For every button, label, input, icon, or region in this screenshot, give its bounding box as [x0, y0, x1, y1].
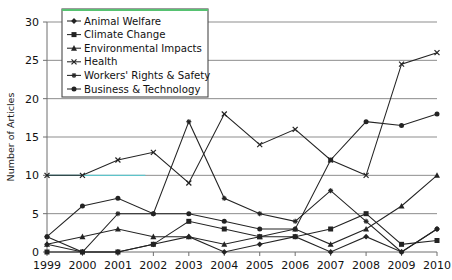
marker-square: [222, 227, 227, 232]
marker-star: [186, 119, 191, 124]
y-tick-label: 10: [25, 169, 39, 182]
marker-star: [328, 188, 333, 193]
marker-cross: [399, 62, 404, 67]
marker-square: [115, 250, 120, 255]
series-line: [47, 175, 437, 244]
x-tick-label: 2005: [246, 259, 274, 272]
series-workers-rights-safety: [45, 119, 440, 254]
y-tick-label: 0: [32, 246, 39, 259]
chart-canvas: 0510152025301999200020012002200320042005…: [0, 0, 452, 280]
series-line: [47, 214, 437, 252]
x-tick-label: 2009: [388, 259, 416, 272]
line-chart: 0510152025301999200020012002200320042005…: [0, 0, 452, 280]
marker-triangle: [328, 241, 334, 247]
legend-item-business-technology[interactable]: Business & Technology: [67, 84, 200, 95]
marker-circle: [364, 119, 369, 124]
y-axis-title: Number of Articles: [5, 93, 16, 182]
marker-cross: [186, 181, 191, 186]
legend-item-workers-rights-safety[interactable]: Workers' Rights & Safety: [67, 70, 210, 81]
marker-star: [293, 219, 298, 224]
marker-star: [80, 250, 85, 255]
legend-item-label: Climate Change: [84, 29, 165, 40]
marker-circle: [115, 196, 120, 201]
marker-circle: [293, 227, 298, 232]
marker-circle: [399, 123, 404, 128]
marker-square: [399, 242, 404, 247]
legend-item-label: Health: [84, 56, 117, 67]
marker-square: [45, 250, 50, 255]
marker-diamond: [328, 249, 334, 255]
marker-circle: [435, 112, 440, 117]
x-tick-label: 2002: [139, 259, 167, 272]
y-tick-label: 15: [25, 131, 39, 144]
legend-item-label: Business & Technology: [84, 84, 200, 95]
x-tick-label: 2001: [104, 259, 132, 272]
marker-square: [72, 32, 77, 37]
y-tick-label: 5: [32, 208, 39, 221]
marker-diamond: [221, 249, 227, 255]
marker-triangle: [363, 226, 369, 232]
x-tick-label: 1999: [33, 259, 61, 272]
marker-circle: [80, 204, 85, 209]
series-environmental-impacts: [44, 172, 440, 247]
marker-square: [328, 227, 333, 232]
marker-circle: [328, 158, 333, 163]
legend: Animal WelfareClimate ChangeEnvironmenta…: [62, 9, 210, 97]
marker-circle: [72, 87, 77, 92]
legend-item-label: Workers' Rights & Safety: [84, 70, 210, 81]
marker-circle: [186, 211, 191, 216]
marker-star: [399, 250, 404, 255]
marker-circle: [151, 211, 156, 216]
x-tick-label: 2006: [281, 259, 309, 272]
marker-star: [435, 227, 440, 232]
legend-item-label: Animal Welfare: [84, 16, 161, 27]
x-tick-label: 2003: [175, 259, 203, 272]
marker-triangle: [115, 226, 121, 232]
x-tick-label: 2010: [423, 259, 451, 272]
marker-star: [115, 211, 120, 216]
marker-diamond: [257, 241, 263, 247]
y-tick-label: 20: [25, 93, 39, 106]
marker-diamond: [363, 234, 369, 240]
x-tick-label: 2004: [210, 259, 238, 272]
marker-square: [435, 238, 440, 243]
marker-circle: [45, 234, 50, 239]
marker-star: [257, 211, 262, 216]
y-tick-label: 25: [25, 54, 39, 67]
marker-star: [222, 196, 227, 201]
y-tick-label: 30: [25, 16, 39, 29]
marker-circle: [257, 227, 262, 232]
x-tick-label: 2008: [352, 259, 380, 272]
legend-item-environmental-impacts[interactable]: Environmental Impacts: [67, 43, 202, 54]
marker-circle: [222, 219, 227, 224]
marker-star: [72, 73, 77, 78]
legend-item-label: Environmental Impacts: [84, 43, 202, 54]
marker-cross: [222, 112, 227, 117]
marker-star: [364, 219, 369, 224]
marker-square: [151, 242, 156, 247]
marker-square: [186, 219, 191, 224]
x-tick-label: 2000: [68, 259, 96, 272]
marker-cross: [257, 142, 262, 147]
marker-square: [364, 211, 369, 216]
marker-square: [293, 234, 298, 239]
marker-cross: [435, 50, 440, 55]
marker-cross: [293, 127, 298, 132]
x-tick-label: 2007: [317, 259, 345, 272]
x-axis-labels: 1999200020012002200320042005200620072008…: [33, 252, 451, 272]
